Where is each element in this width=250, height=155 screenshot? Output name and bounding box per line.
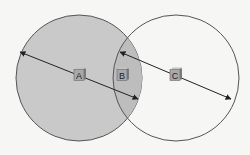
cube-label-c: C xyxy=(170,68,182,81)
label-b: B xyxy=(119,71,125,81)
label-c: C xyxy=(172,71,179,81)
cube-label-b: B xyxy=(117,68,129,81)
venn-diagram: A B C xyxy=(0,0,250,155)
label-a: A xyxy=(76,71,82,81)
cube-label-a: A xyxy=(74,68,86,81)
